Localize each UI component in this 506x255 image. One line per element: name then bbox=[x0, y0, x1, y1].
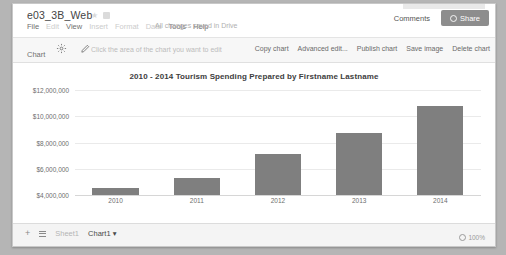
sheet-bottom-bar: + Sheet1 Chart1 ▾ 100% bbox=[13, 223, 495, 246]
x-axis-tick-label: 2012 bbox=[239, 197, 316, 204]
add-sheet-button[interactable]: + bbox=[25, 229, 30, 238]
document-title[interactable]: e03_3B_Web bbox=[27, 9, 92, 21]
menu-item-file[interactable]: File bbox=[27, 22, 39, 31]
chart-bar-column bbox=[321, 90, 398, 195]
chart-edit-hint: Click the area of the chart you want to … bbox=[91, 46, 222, 53]
publish-chart-button[interactable]: Publish chart bbox=[357, 45, 397, 52]
chart-bar-column bbox=[239, 90, 316, 195]
sheet-tab-chart1[interactable]: Chart1 ▾ bbox=[88, 229, 116, 238]
title-icon-group: ★ bbox=[91, 12, 110, 19]
chart-bar[interactable] bbox=[92, 188, 138, 195]
delete-chart-button[interactable]: Delete chart bbox=[452, 45, 490, 52]
chart-toolbar-buttons: Copy chart Advanced edit... Publish char… bbox=[255, 45, 490, 52]
sheet-tab-sheet1[interactable]: Sheet1 bbox=[55, 229, 79, 238]
star-icon[interactable]: ★ bbox=[91, 12, 98, 19]
menu-item-format[interactable]: Format bbox=[115, 22, 139, 31]
account-bar-placeholder bbox=[403, 4, 485, 9]
menu-item-view[interactable]: View bbox=[66, 22, 82, 31]
y-axis-tick-label: $6,000,000 bbox=[36, 165, 69, 172]
x-axis-tick-label: 2011 bbox=[158, 197, 235, 204]
header-actions: Comments Share bbox=[389, 10, 489, 26]
spreadsheet-app-window: e03_3B_Web ★ File Edit View Insert Forma… bbox=[12, 3, 496, 247]
chart-toolbar-label: Chart bbox=[27, 50, 45, 59]
save-status-text: All changes saved in Drive bbox=[155, 22, 238, 29]
chart-bar[interactable] bbox=[174, 178, 220, 195]
x-axis-tick-label: 2010 bbox=[77, 197, 154, 204]
x-axis-tick-label: 2014 bbox=[402, 197, 479, 204]
comments-button[interactable]: Comments bbox=[389, 11, 435, 26]
chart-bar-column bbox=[77, 90, 154, 195]
y-axis-tick-label: $12,000,000 bbox=[33, 87, 69, 94]
chart-bars bbox=[75, 90, 481, 195]
chart-x-axis: 20102011201220132014 bbox=[75, 197, 481, 204]
y-axis-tick-label: $4,000,000 bbox=[36, 192, 69, 199]
share-button[interactable]: Share bbox=[441, 10, 489, 26]
magnifier-icon bbox=[459, 234, 466, 241]
y-axis-tick-label: $10,000,000 bbox=[33, 113, 69, 120]
copy-chart-button[interactable]: Copy chart bbox=[255, 45, 289, 52]
chart-title: 2010 - 2014 Tourism Spending Prepared by… bbox=[13, 72, 495, 81]
advanced-edit-button[interactable]: Advanced edit... bbox=[298, 45, 348, 52]
share-button-label: Share bbox=[460, 14, 480, 23]
chart-toolbar: Chart Click the area of the chart you wa… bbox=[13, 37, 495, 63]
chart-bar[interactable] bbox=[336, 133, 382, 195]
x-axis-tick-label: 2013 bbox=[321, 197, 398, 204]
folder-icon[interactable] bbox=[103, 12, 110, 19]
sheet-tab-controls: + Sheet1 Chart1 ▾ bbox=[25, 229, 116, 238]
y-axis-tick-label: $8,000,000 bbox=[36, 139, 69, 146]
zoom-level-label: 100% bbox=[468, 234, 485, 241]
chart-plot-area: $12,000,000$10,000,000$8,000,000$6,000,0… bbox=[75, 90, 481, 195]
chart-gridline: $4,000,000 bbox=[75, 195, 481, 196]
zoom-indicator[interactable]: 100% bbox=[459, 234, 485, 241]
screenshot-root: e03_3B_Web ★ File Edit View Insert Forma… bbox=[0, 0, 506, 255]
all-sheets-menu-icon[interactable] bbox=[39, 231, 46, 237]
chart-bar-column bbox=[402, 90, 479, 195]
save-image-button[interactable]: Save image bbox=[406, 45, 443, 52]
chart-bar[interactable] bbox=[255, 154, 301, 195]
menu-item-edit[interactable]: Edit bbox=[46, 22, 59, 31]
lock-icon bbox=[450, 15, 457, 22]
chart-canvas[interactable]: 2010 - 2014 Tourism Spending Prepared by… bbox=[13, 63, 495, 223]
menu-item-insert[interactable]: Insert bbox=[89, 22, 108, 31]
chart-toolbar-icons bbox=[55, 42, 92, 55]
chart-bar[interactable] bbox=[417, 106, 463, 195]
app-header: e03_3B_Web ★ File Edit View Insert Forma… bbox=[13, 4, 495, 37]
settings-gear-icon[interactable] bbox=[55, 42, 68, 55]
chart-bar-column bbox=[158, 90, 235, 195]
